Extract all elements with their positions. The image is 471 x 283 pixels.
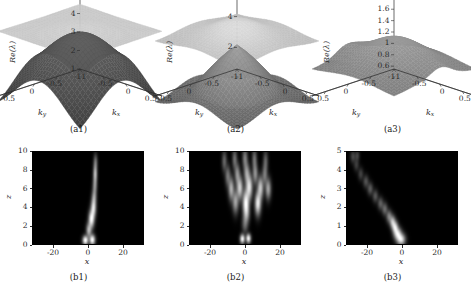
tick-mark (344, 188, 347, 189)
tick-label: 0 (440, 88, 445, 96)
tick-label: -0.5 (255, 80, 269, 88)
panel-a2: Re(λ) ky kx (a2) 240.50-0.5-1-1-0.500.5 (157, 0, 314, 140)
tick-label: -0.5 (412, 80, 426, 88)
tick-mark (30, 207, 33, 208)
tick-label: 2 (228, 44, 233, 52)
tick-label: 4 (228, 13, 233, 21)
tick-label: -20 (361, 249, 373, 257)
tick-label: -1 (79, 73, 86, 81)
tick-mark (187, 245, 190, 246)
tick-label: 0 (283, 88, 288, 96)
tick-label: 1.8 (378, 0, 390, 2)
panel-a3: Re(λ) ky kx (a3) 1.81.61.41.210.80.60.50… (314, 0, 471, 140)
tick-mark (30, 226, 33, 227)
axis-label-ky-a1: ky (38, 108, 46, 117)
surface-plot-a3 (314, 0, 471, 120)
tick-mark (30, 170, 33, 171)
axis-label-ky-a2: ky (195, 108, 203, 117)
surface-plot-a1 (0, 0, 157, 120)
tick-label: 2 (71, 47, 76, 55)
tick-label: -20 (204, 249, 216, 257)
axis-label-x-b1: x (85, 257, 90, 266)
tick-label: -0.5 (204, 80, 218, 88)
tick-mark (344, 151, 347, 152)
tick-label: 5 (337, 147, 342, 155)
tick-label: 2 (337, 204, 342, 212)
tick-mark (30, 188, 33, 189)
axis-label-kx-a3: kx (426, 108, 434, 117)
tick-label: 3 (71, 28, 76, 36)
tick-label: 0 (243, 249, 248, 257)
tick-label: 1.2 (378, 28, 390, 36)
tick-label: 0.5 (317, 95, 329, 103)
tick-label: 20 (118, 249, 128, 257)
tick-label: 0 (400, 249, 405, 257)
tick-label: 10 (175, 147, 185, 155)
density-plot-b1 (32, 151, 144, 245)
tick-mark (344, 207, 347, 208)
tick-label: 6 (180, 185, 185, 193)
tick-label: 0 (126, 88, 131, 96)
tick-label: 0.5 (3, 95, 15, 103)
tick-label: 0 (344, 88, 349, 96)
density-plot-b3 (346, 151, 458, 245)
tick-label: 0 (180, 241, 185, 249)
tick-label: 1.6 (378, 5, 390, 13)
tick-label: 1 (337, 222, 342, 230)
caption-b1: (b1) (0, 272, 157, 282)
tick-label: 0.5 (160, 95, 172, 103)
axis-label-z-b3: z (318, 195, 327, 199)
tick-label: 6 (23, 185, 28, 193)
tick-label: 8 (23, 166, 28, 174)
axis-label-kx-a1: kx (112, 108, 120, 117)
caption-b2: (b2) (157, 272, 314, 282)
tick-label: -0.5 (47, 80, 61, 88)
tick-mark (344, 226, 347, 227)
tick-label: 20 (432, 249, 442, 257)
panel-b2: z x (b2) 0246810-20020 (157, 143, 314, 283)
panel-b3: z x (b3) 012345-20020 (314, 143, 471, 283)
tick-label: -20 (47, 249, 59, 257)
tick-label: -0.5 (98, 80, 112, 88)
tick-mark (187, 188, 190, 189)
tick-label: 8 (180, 166, 185, 174)
figure-root: Re(λ) ky kx (a1) 123450.50-0.5-1-1-0.500… (0, 0, 471, 283)
axis-label-kx-a2: kx (269, 108, 277, 117)
tick-label: 3 (337, 185, 342, 193)
tick-label: 20 (275, 249, 285, 257)
tick-label: 4 (71, 10, 76, 18)
tick-mark (187, 170, 190, 171)
axis-label-z-a1: Re(λ) (8, 41, 17, 63)
caption-a3: (a3) (314, 124, 471, 134)
tick-label: 0 (337, 241, 342, 249)
tick-label: 2 (23, 222, 28, 230)
density-plot-b2 (189, 151, 301, 245)
tick-label: 1 (385, 40, 390, 48)
tick-label: 0.5 (459, 95, 471, 103)
axis-label-z-b2: z (161, 195, 170, 199)
tick-mark (187, 151, 190, 152)
tick-mark (30, 245, 33, 246)
tick-label: 1.4 (378, 17, 390, 25)
axis-label-x-b2: x (242, 257, 247, 266)
tick-label: -1 (236, 73, 243, 81)
tick-label: 4 (23, 204, 28, 212)
tick-label: 0 (30, 88, 35, 96)
tick-mark (187, 226, 190, 227)
caption-a1: (a1) (0, 124, 157, 134)
tick-mark (187, 207, 190, 208)
tick-label: 0 (86, 249, 91, 257)
axis-label-z-b1: z (4, 195, 13, 199)
tick-label: 0.5 (302, 95, 314, 103)
tick-label: 4 (337, 166, 342, 174)
tick-label: 0.6 (378, 62, 390, 70)
tick-mark (30, 151, 33, 152)
tick-mark (344, 170, 347, 171)
tick-mark (344, 245, 347, 246)
tick-label: 0.8 (378, 51, 390, 59)
tick-label: 2 (180, 222, 185, 230)
tick-label: 0 (187, 88, 192, 96)
tick-label: -1 (393, 73, 400, 81)
tick-label: 10 (18, 147, 28, 155)
axis-label-z-a3: Re(λ) (322, 41, 331, 63)
